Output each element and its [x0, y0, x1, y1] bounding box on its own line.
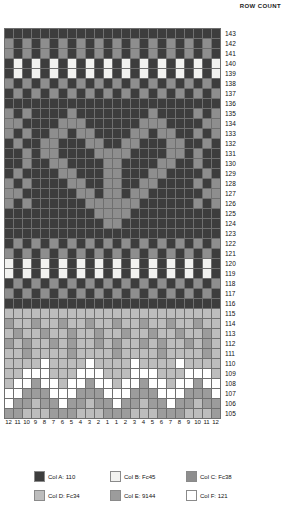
chart-cell[interactable]: [176, 399, 185, 409]
chart-cell[interactable]: [149, 169, 158, 179]
chart-cell[interactable]: [194, 359, 203, 369]
chart-cell[interactable]: [104, 279, 113, 289]
chart-cell[interactable]: [104, 59, 113, 69]
chart-cell[interactable]: [122, 159, 131, 169]
chart-cell[interactable]: [77, 259, 86, 269]
chart-cell[interactable]: [50, 359, 59, 369]
chart-cell[interactable]: [194, 159, 203, 169]
chart-cell[interactable]: [167, 399, 176, 409]
chart-cell[interactable]: [95, 199, 104, 209]
chart-cell[interactable]: [131, 29, 140, 39]
chart-cell[interactable]: [68, 259, 77, 269]
chart-cell[interactable]: [167, 29, 176, 39]
chart-cell[interactable]: [23, 59, 32, 69]
chart-cell[interactable]: [41, 49, 50, 59]
chart-cell[interactable]: [131, 289, 140, 299]
chart-cell[interactable]: [203, 169, 212, 179]
chart-cell[interactable]: [14, 39, 23, 49]
chart-cell[interactable]: [167, 79, 176, 89]
chart-cell[interactable]: [212, 179, 221, 189]
chart-cell[interactable]: [5, 129, 14, 139]
chart-cell[interactable]: [104, 329, 113, 339]
chart-cell[interactable]: [212, 29, 221, 39]
chart-cell[interactable]: [203, 109, 212, 119]
chart-cell[interactable]: [41, 129, 50, 139]
chart-cell[interactable]: [194, 69, 203, 79]
chart-cell[interactable]: [140, 109, 149, 119]
chart-cell[interactable]: [203, 339, 212, 349]
chart-cell[interactable]: [176, 349, 185, 359]
chart-cell[interactable]: [140, 299, 149, 309]
chart-cell[interactable]: [86, 169, 95, 179]
chart-cell[interactable]: [104, 39, 113, 49]
chart-cell[interactable]: [140, 199, 149, 209]
legend-item-c[interactable]: Col C: Fc38: [186, 471, 262, 482]
chart-cell[interactable]: [32, 79, 41, 89]
chart-cell[interactable]: [32, 109, 41, 119]
chart-cell[interactable]: [167, 289, 176, 299]
chart-cell[interactable]: [113, 259, 122, 269]
chart-cell[interactable]: [104, 69, 113, 79]
chart-cell[interactable]: [131, 199, 140, 209]
chart-cell[interactable]: [122, 59, 131, 69]
chart-cell[interactable]: [104, 389, 113, 399]
chart-cell[interactable]: [203, 69, 212, 79]
chart-cell[interactable]: [59, 199, 68, 209]
chart-cell[interactable]: [50, 39, 59, 49]
chart-cell[interactable]: [113, 179, 122, 189]
chart-cell[interactable]: [23, 309, 32, 319]
chart-cell[interactable]: [113, 239, 122, 249]
chart-cell[interactable]: [122, 209, 131, 219]
chart-cell[interactable]: [176, 319, 185, 329]
chart-cell[interactable]: [113, 89, 122, 99]
chart-cell[interactable]: [122, 289, 131, 299]
chart-cell[interactable]: [50, 249, 59, 259]
chart-cell[interactable]: [95, 69, 104, 79]
chart-cell[interactable]: [95, 229, 104, 239]
chart-cell[interactable]: [185, 69, 194, 79]
chart-cell[interactable]: [194, 179, 203, 189]
chart-cell[interactable]: [86, 109, 95, 119]
chart-cell[interactable]: [14, 259, 23, 269]
chart-cell[interactable]: [194, 169, 203, 179]
chart-cell[interactable]: [149, 329, 158, 339]
chart-cell[interactable]: [167, 319, 176, 329]
chart-cell[interactable]: [194, 49, 203, 59]
chart-cell[interactable]: [5, 309, 14, 319]
chart-cell[interactable]: [212, 259, 221, 269]
chart-cell[interactable]: [68, 79, 77, 89]
chart-cell[interactable]: [23, 159, 32, 169]
chart-cell[interactable]: [41, 359, 50, 369]
chart-cell[interactable]: [95, 79, 104, 89]
chart-cell[interactable]: [140, 289, 149, 299]
chart-cell[interactable]: [41, 409, 50, 419]
chart-cell[interactable]: [158, 29, 167, 39]
chart-cell[interactable]: [77, 349, 86, 359]
chart-cell[interactable]: [158, 389, 167, 399]
chart-cell[interactable]: [68, 159, 77, 169]
chart-cell[interactable]: [23, 339, 32, 349]
chart-cell[interactable]: [158, 259, 167, 269]
chart-cell[interactable]: [104, 169, 113, 179]
chart-cell[interactable]: [5, 399, 14, 409]
chart-cell[interactable]: [104, 99, 113, 109]
chart-cell[interactable]: [86, 409, 95, 419]
chart-cell[interactable]: [5, 219, 14, 229]
chart-cell[interactable]: [140, 59, 149, 69]
chart-cell[interactable]: [113, 129, 122, 139]
chart-cell[interactable]: [23, 139, 32, 149]
chart-cell[interactable]: [23, 149, 32, 159]
chart-cell[interactable]: [32, 359, 41, 369]
chart-cell[interactable]: [23, 29, 32, 39]
chart-cell[interactable]: [140, 399, 149, 409]
chart-cell[interactable]: [86, 29, 95, 39]
chart-cell[interactable]: [50, 29, 59, 39]
chart-cell[interactable]: [122, 179, 131, 189]
chart-cell[interactable]: [95, 369, 104, 379]
chart-cell[interactable]: [131, 269, 140, 279]
chart-cell[interactable]: [158, 379, 167, 389]
chart-cell[interactable]: [41, 279, 50, 289]
chart-cell[interactable]: [95, 379, 104, 389]
chart-cell[interactable]: [86, 159, 95, 169]
chart-cell[interactable]: [212, 369, 221, 379]
